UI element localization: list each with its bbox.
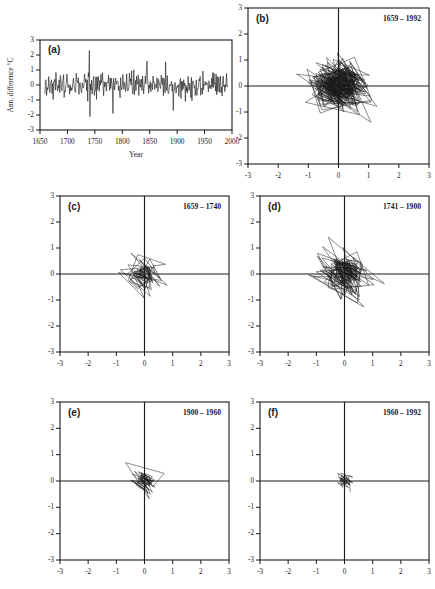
panel-d-xtick: -3 — [257, 360, 263, 368]
panel-d-ytick: 2 — [250, 218, 254, 226]
panel-f-ytick: 2 — [250, 424, 254, 432]
panel-c-ytick: 1 — [50, 244, 54, 252]
panel-d-xtick: 2 — [399, 360, 403, 368]
panel-d-ytick: 3 — [250, 192, 254, 200]
panel-b-xtick: -2 — [275, 172, 281, 180]
panel-b-xtick: 3 — [427, 172, 431, 180]
panel-e-svg: -3-2-10123-3-2-10123(e)1900 – 1960 — [30, 394, 235, 586]
panel-b-svg: -3-2-10123-3-2-10123(b)1659 – 1992 — [222, 0, 435, 190]
panel-f-ytick: 3 — [250, 398, 254, 406]
panel-a-ytick: -1 — [28, 95, 34, 104]
panel-e-xtick: -2 — [85, 568, 91, 576]
panel-d-xtick: -2 — [285, 360, 291, 368]
panel-d-xtick: 0 — [343, 360, 347, 368]
panel-f-phase-plot: -3-2-10123-3-2-10123(f)1960 – 1992 — [230, 394, 435, 586]
panel-b-ytick: 0 — [238, 82, 242, 90]
panel-a-timeseries: 16501700175018001850190019502000-3-2-101… — [0, 26, 240, 176]
panel-c-ytick: 2 — [50, 218, 54, 226]
panel-a-ytick: 2 — [30, 50, 34, 59]
panel-a-xtick: 1900 — [170, 137, 185, 146]
panel-f-epoch-label: 1960 – 1992 — [383, 408, 421, 417]
panel-f-svg: -3-2-10123-3-2-10123(f)1960 – 1992 — [230, 394, 435, 586]
panel-c-label: (c) — [68, 201, 80, 212]
panel-e-xtick: -3 — [57, 568, 63, 576]
panel-b-label: (b) — [256, 13, 269, 24]
panel-d-xtick: 3 — [427, 360, 431, 368]
panel-f-ytick: -3 — [248, 556, 254, 564]
panel-f-ytick: 1 — [250, 450, 254, 458]
panel-e-ytick: -2 — [48, 529, 54, 537]
panel-d-trajectory — [309, 237, 385, 307]
panel-e-phase-plot: -3-2-10123-3-2-10123(e)1900 – 1960 — [30, 394, 235, 586]
panel-c-xtick: -3 — [57, 360, 63, 368]
panel-b-xtick: 2 — [397, 172, 401, 180]
panel-c-xtick: -1 — [113, 360, 119, 368]
panel-e-ytick: 3 — [50, 398, 54, 406]
panel-e-ytick: -1 — [48, 503, 54, 511]
panel-d-ytick: -2 — [248, 322, 254, 330]
panel-b-xtick: -3 — [245, 172, 251, 180]
panel-f-ytick: -2 — [248, 529, 254, 537]
panel-b-ytick: 3 — [238, 4, 242, 12]
panel-d-ytick: 0 — [250, 270, 254, 278]
panel-f-trajectory — [338, 473, 353, 492]
panel-c-xtick: 1 — [171, 360, 175, 368]
panel-c-xtick: 0 — [143, 360, 147, 368]
panel-f-xtick: -3 — [257, 568, 263, 576]
panel-f-xtick: -1 — [313, 568, 319, 576]
panel-e-xtick: 2 — [199, 568, 203, 576]
panel-b-trajectory — [297, 53, 377, 122]
panel-a-svg: 16501700175018001850190019502000-3-2-101… — [0, 26, 240, 176]
panel-d-xtick: -1 — [313, 360, 319, 368]
panel-d-label: (d) — [268, 201, 281, 212]
panel-c-ytick: 0 — [50, 270, 54, 278]
panel-e-xtick: 0 — [143, 568, 147, 576]
panel-a-ytick: -3 — [28, 125, 34, 134]
panel-a-xtick: 1800 — [115, 137, 130, 146]
panel-e-ytick: 0 — [50, 477, 54, 485]
panel-d-svg: -3-2-10123-3-2-10123(d)1741 – 1900 — [230, 188, 435, 378]
panel-d-ytick: 1 — [250, 244, 254, 252]
panel-a-label: (a) — [48, 44, 60, 55]
panel-a-xlabel: Year — [129, 150, 143, 159]
panel-c-ytick: -1 — [48, 296, 54, 304]
panel-e-epoch-label: 1900 – 1960 — [183, 408, 221, 417]
panel-e-label: (e) — [68, 407, 80, 418]
panel-c-ytick: -2 — [48, 322, 54, 330]
panel-a-series — [45, 51, 228, 117]
panel-a-xtick: 1750 — [87, 137, 102, 146]
panel-a-ylabel: Ann. difference °C — [7, 58, 15, 113]
panel-f-label: (f) — [268, 407, 278, 418]
panel-e-xtick: -1 — [113, 568, 119, 576]
panel-b-epoch-label: 1659 – 1992 — [383, 14, 421, 23]
panel-b-phase-plot: -3-2-10123-3-2-10123(b)1659 – 1992 — [222, 0, 435, 190]
panel-c-phase-plot: -3-2-10123-3-2-10123(c)1659 – 1740 — [30, 188, 235, 378]
panel-a-xtick: 1700 — [60, 137, 75, 146]
panel-f-xtick: 1 — [371, 568, 375, 576]
panel-c-svg: -3-2-10123-3-2-10123(c)1659 – 1740 — [30, 188, 235, 378]
panel-b-ytick: 1 — [238, 56, 242, 64]
panel-c-ytick: -3 — [48, 348, 54, 356]
panel-b-ytick: -3 — [236, 160, 242, 168]
panel-e-ytick: 1 — [50, 450, 54, 458]
panel-a-ytick: 1 — [30, 65, 34, 74]
panel-f-ytick: 0 — [250, 477, 254, 485]
panel-b-xtick: -1 — [305, 172, 311, 180]
panel-e-ytick: -3 — [48, 556, 54, 564]
panel-e-ytick: 2 — [50, 424, 54, 432]
panel-a-xtick: 1650 — [33, 137, 48, 146]
panel-b-ytick: -2 — [236, 134, 242, 142]
panel-d-phase-plot: -3-2-10123-3-2-10123(d)1741 – 1900 — [230, 188, 435, 378]
panel-d-xtick: 1 — [371, 360, 375, 368]
panel-d-epoch-label: 1741 – 1900 — [383, 202, 421, 211]
panel-c-epoch-label: 1659 – 1740 — [183, 202, 221, 211]
panel-b-xtick: 0 — [337, 172, 341, 180]
panel-b-xtick: 1 — [367, 172, 371, 180]
panel-f-ytick: -1 — [248, 503, 254, 511]
panel-a-ytick: 3 — [30, 35, 34, 44]
panel-b-ytick: 2 — [238, 30, 242, 38]
panel-f-xtick: 2 — [399, 568, 403, 576]
panel-c-xtick: -2 — [85, 360, 91, 368]
panel-e-xtick: 1 — [171, 568, 175, 576]
panel-d-ytick: -3 — [248, 348, 254, 356]
